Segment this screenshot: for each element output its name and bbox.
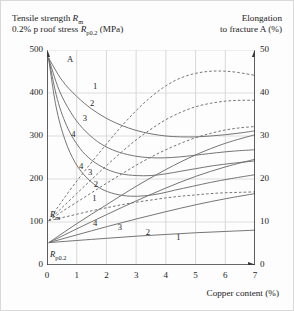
rp-start-label: Rp0.2: [50, 249, 66, 259]
right-axis-title-line1: Elongation: [242, 13, 282, 23]
y-tick-left-300: 300: [9, 130, 43, 140]
y-axis-left-arrow: [47, 50, 50, 57]
data-curves: [48, 58, 255, 243]
plot-area: [47, 50, 255, 265]
curve-Rp02-3: [49, 159, 255, 242]
y-tick-right-20: 20: [260, 173, 294, 183]
y-tick-right-40: 40: [260, 87, 294, 97]
y-tick-right-50: 50: [260, 44, 294, 54]
y-tick-left-0: 0: [9, 259, 43, 269]
rp-subscript: p0.2: [86, 29, 97, 36]
left-unit-text: (MPa): [97, 24, 123, 34]
right-axis-title-line2: to fracture A (%): [220, 24, 282, 34]
curve-label-Rm-3: 3: [88, 167, 92, 177]
x-tick-1: 1: [68, 270, 86, 280]
y-tick-right-30: 30: [260, 130, 294, 140]
curve-Rm-4: [49, 71, 255, 221]
curve-label-A-2: 2: [90, 98, 94, 108]
x-tick-5: 5: [187, 270, 205, 280]
curve-Rp02-4: [49, 135, 255, 243]
peak-marker-label: A: [67, 54, 73, 64]
curve-label-A-3: 3: [83, 113, 87, 123]
y-axis-right-arrow: [252, 50, 255, 57]
curve-A-2: [48, 58, 255, 158]
curve-label-Rp02-4: 4: [93, 218, 97, 228]
curve-label-Rp02-1: 1: [176, 232, 180, 242]
y-tick-left-400: 400: [9, 87, 43, 97]
curve-Rm-1: [49, 192, 255, 221]
curve-Rp02-1: [49, 230, 255, 242]
x-axis-label: Copper content (%): [207, 288, 279, 298]
curve-label-Rm-4: 4: [79, 161, 83, 171]
x-tick-4: 4: [157, 270, 175, 280]
x-tick-7: 7: [246, 270, 264, 280]
x-tick-0: 0: [38, 270, 56, 280]
curve-label-Rp02-2: 2: [146, 227, 150, 237]
left-axis-title-line1: Tensile strength Rm: [12, 13, 83, 23]
curve-label-Rm-2: 2: [94, 179, 98, 189]
y-tick-left-200: 200: [9, 173, 43, 183]
x-tick-6: 6: [216, 270, 234, 280]
x-axis-arrow: [248, 262, 255, 265]
y-tick-left-500: 500: [9, 44, 43, 54]
y-tick-left-100: 100: [9, 216, 43, 226]
rp-title-text: 0.2% p roof stress: [12, 24, 81, 34]
left-title-text: Tensile strength: [12, 13, 73, 23]
curve-label-A-4: 4: [71, 129, 75, 139]
curve-Rm-2: [49, 127, 255, 221]
rm-start-subscript: m: [55, 214, 60, 221]
left-axis-title-line2: 0.2% p roof stress Rp0.2 (MPa): [12, 24, 123, 34]
figure-container: Tensile strength Rm 0.2% p roof stress R…: [0, 0, 294, 311]
left-axis-title: Tensile strength Rm 0.2% p roof stress R…: [12, 13, 123, 36]
rm-start-label: Rm: [50, 209, 60, 219]
chart-svg: [47, 50, 255, 265]
curve-label-Rm-1: 1: [92, 193, 96, 203]
y-tick-right-10: 10: [260, 216, 294, 226]
curve-label-Rp02-3: 3: [118, 222, 122, 232]
rp-start-subscript: p0.2: [55, 254, 66, 261]
y-tick-right-0: 0: [260, 259, 294, 269]
curve-label-A-1: 1: [93, 81, 97, 91]
x-tick-3: 3: [127, 270, 145, 280]
x-tick-2: 2: [97, 270, 115, 280]
right-axis-title: Elongation to fracture A (%): [220, 13, 282, 36]
